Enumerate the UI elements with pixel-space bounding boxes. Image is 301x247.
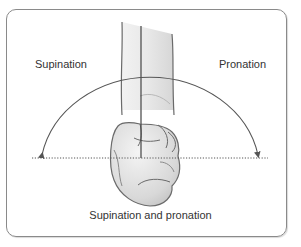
- supination-label: Supination: [35, 58, 87, 70]
- forearm: [121, 22, 174, 115]
- figure-caption: Supination and pronation: [0, 209, 301, 221]
- fist: [111, 123, 180, 206]
- pronation-label: Pronation: [219, 58, 266, 70]
